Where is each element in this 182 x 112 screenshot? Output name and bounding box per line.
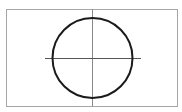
circle-diagram bbox=[0, 0, 182, 112]
